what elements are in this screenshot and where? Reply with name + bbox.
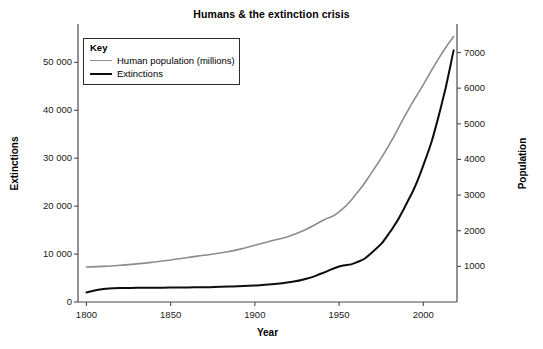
legend-swatch-population bbox=[90, 60, 112, 61]
left-tick-label: 40 000 bbox=[12, 104, 72, 115]
left-tick-label: 20 000 bbox=[12, 200, 72, 211]
legend-label-population: Human population (millions) bbox=[117, 55, 235, 66]
bottom-tick-label: 1950 bbox=[309, 309, 369, 320]
y-axis-left-title: Extinctions bbox=[9, 114, 20, 214]
right-tick-label: 2000 bbox=[464, 225, 524, 236]
right-tick-label: 4000 bbox=[464, 153, 524, 164]
left-tick-label: 30 000 bbox=[12, 152, 72, 163]
legend: Key Human population (millions) Extincti… bbox=[83, 38, 240, 85]
bottom-tick-label: 1900 bbox=[225, 309, 285, 320]
bottom-tick-label: 1850 bbox=[141, 309, 201, 320]
right-tick-label: 5000 bbox=[464, 118, 524, 129]
chart-container: Humans & the extinction crisis Extinctio… bbox=[0, 0, 543, 349]
right-tick-label: 1000 bbox=[464, 260, 524, 271]
right-tick-label: 6000 bbox=[464, 82, 524, 93]
left-tick-label: 0 bbox=[12, 296, 72, 307]
right-tick-label: 7000 bbox=[464, 47, 524, 58]
right-tick-label: 3000 bbox=[464, 189, 524, 200]
left-tick-label: 10 000 bbox=[12, 248, 72, 259]
series-line-extinctions bbox=[86, 50, 453, 292]
legend-item-population: Human population (millions) bbox=[90, 54, 233, 67]
bottom-tick-label: 1800 bbox=[56, 309, 116, 320]
x-axis-title: Year bbox=[78, 327, 457, 338]
plot-area bbox=[0, 0, 543, 349]
legend-title: Key bbox=[90, 42, 233, 53]
bottom-tick-label: 2000 bbox=[393, 309, 453, 320]
legend-swatch-extinctions bbox=[90, 73, 112, 75]
left-tick-label: 50 000 bbox=[12, 56, 72, 67]
legend-item-extinctions: Extinctions bbox=[90, 67, 233, 80]
legend-label-extinctions: Extinctions bbox=[117, 68, 163, 79]
